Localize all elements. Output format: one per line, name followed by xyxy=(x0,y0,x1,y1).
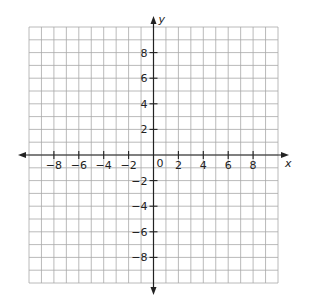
y-tick-label: −6 xyxy=(131,226,147,239)
x-tick-label: −4 xyxy=(96,159,112,172)
y-axis-label: y xyxy=(158,13,166,26)
x-tick-label: −8 xyxy=(46,159,62,172)
axes xyxy=(18,16,289,295)
y-axis-arrow-down-icon xyxy=(151,287,157,295)
x-tick-label: 2 xyxy=(175,159,182,172)
x-tick-label: −6 xyxy=(71,159,87,172)
y-tick-label: 4 xyxy=(141,98,148,111)
x-axis-label: x xyxy=(284,157,292,170)
x-tick-label: 8 xyxy=(250,159,257,172)
y-tick-label: −8 xyxy=(131,251,147,264)
x-axis-arrow-left-icon xyxy=(18,152,26,158)
x-tick-label: −2 xyxy=(120,159,136,172)
y-tick-label: 2 xyxy=(141,123,148,136)
y-tick-label: 6 xyxy=(141,72,148,85)
y-tick-label: −2 xyxy=(131,175,147,188)
x-tick-label: 6 xyxy=(225,159,232,172)
origin-label: 0 xyxy=(157,157,164,170)
y-axis-arrow-up-icon xyxy=(151,16,157,24)
coordinate-plane: −8−6−4−224688642−2−4−6−8 x y 0 xyxy=(0,0,309,306)
y-tick-label: −4 xyxy=(131,200,147,213)
x-tick-label: 4 xyxy=(200,159,207,172)
y-tick-label: 8 xyxy=(141,47,148,60)
